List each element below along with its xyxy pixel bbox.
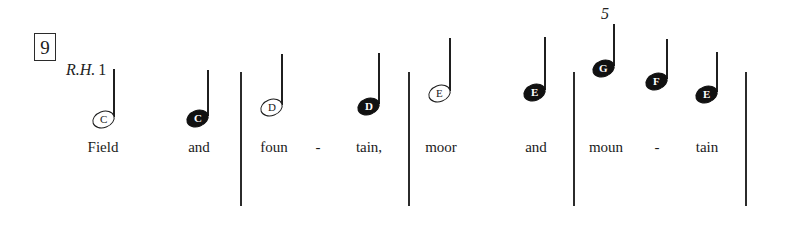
barline: [745, 72, 747, 206]
hand-abbreviation-label: R.H.: [66, 61, 95, 78]
note-letter-label: E: [436, 88, 443, 99]
note-stem: [378, 53, 380, 104]
note-letter-label: G: [599, 63, 608, 74]
note-letter-label: D: [365, 101, 373, 112]
note-stem: [281, 54, 283, 105]
lyric-syllable: moor: [425, 140, 457, 155]
lyric-syllable: and: [188, 140, 210, 155]
lyric-syllable: moun: [589, 140, 623, 155]
lyric-syllable: Field: [88, 140, 119, 155]
lyric-hyphen: -: [655, 140, 660, 155]
note-letter-label: F: [653, 76, 660, 87]
barline: [240, 72, 242, 206]
lyric-syllable: and: [525, 140, 547, 155]
note-stem: [613, 24, 615, 66]
note-letter-label: D: [268, 102, 276, 113]
hand-indication: R.H.1: [66, 62, 106, 78]
measure-number-box: 9: [34, 33, 56, 61]
barline: [408, 72, 410, 206]
note-finger-number: 5: [601, 6, 609, 22]
note-letter-label: E: [531, 87, 538, 98]
hand-finger-number-label: 1: [98, 61, 106, 78]
music-notation-sheet: 9 R.H.1 CCDDEEG5FE Fieldandfountain,moor…: [0, 0, 787, 231]
note-letter-label: C: [194, 113, 202, 124]
note-stem: [207, 70, 209, 116]
note-stem: [544, 37, 546, 90]
barline: [573, 72, 575, 206]
note-stem: [716, 52, 718, 92]
lyric-syllable: foun: [260, 140, 288, 155]
note-stem: [113, 69, 115, 117]
note-stem: [666, 39, 668, 79]
note-letter-label: E: [703, 89, 710, 100]
measure-number-label: 9: [40, 38, 50, 57]
lyric-syllable: tain,: [356, 140, 382, 155]
lyric-syllable: tain: [696, 140, 719, 155]
note-letter-label: C: [100, 114, 107, 125]
lyric-hyphen: -: [316, 140, 321, 155]
note-stem: [449, 38, 451, 91]
